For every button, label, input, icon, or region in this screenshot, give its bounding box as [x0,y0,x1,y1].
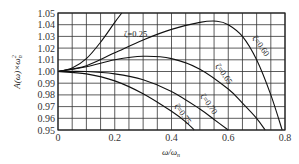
x-tick-label: 0.6 [222,132,235,143]
chart-canvas: ζ=0.25ζ=0.60ζ=0.65ζ=0.70ζ=0.75 1.051.041… [0,0,299,164]
y-tick-label: 1.03 [38,31,56,42]
y-tick-label: 0.97 [38,101,56,112]
y-tick-label: 0.96 [38,113,56,124]
y-tick-label: 1.02 [38,43,56,54]
y-tick-label: 0.98 [38,89,56,100]
x-axis-label: ω/ωn [162,147,180,158]
curve-ζ=0.65 [58,56,265,130]
x-tick-label: 0.8 [279,132,292,143]
y-tick-label: 1.01 [38,54,56,65]
curve-label: ζ=0.65 [213,61,235,86]
curve-ζ=0.60 [58,21,282,130]
x-tick-label: 0.4 [165,132,178,143]
y-tick-label: 0.95 [38,125,56,136]
x-tick-label: 0.2 [109,132,122,143]
curve-ζ=0.25 [58,13,122,72]
y-tick-label: 1.05 [38,8,56,19]
curve-labels: ζ=0.25ζ=0.60ζ=0.65ζ=0.70ζ=0.75 [124,29,272,126]
curve-label: ζ=0.25 [124,29,147,39]
y-tick-label: 0.99 [38,78,56,89]
axis-ticks: 1.051.041.031.021.011.000.990.980.970.96… [38,8,292,144]
y-tick-label: 1.04 [38,19,56,30]
x-tick-label: 0 [56,132,61,143]
y-tick-label: 1.00 [38,66,56,77]
y-axis-label: A(ω)×ω2n [11,55,23,89]
curve-ζ=0.75 [58,72,194,131]
